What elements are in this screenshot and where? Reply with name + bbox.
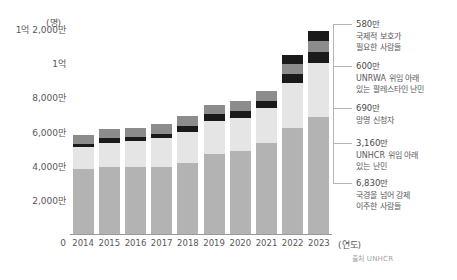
source-note: 출처 UNHCR — [352, 253, 393, 263]
bar-segment-2017-s1[interactable] — [151, 138, 172, 166]
x-axis-tick-2021: 2021 — [256, 238, 278, 248]
bar-2022[interactable] — [282, 55, 303, 234]
bar-segment-2020-s0[interactable] — [230, 151, 251, 234]
bar-segment-2016-s1[interactable] — [125, 141, 146, 167]
y-axis-tick: 4,000만 — [32, 162, 66, 171]
y-axis-tick: 8,000만 — [32, 94, 66, 103]
y-axis-tick: 6,000만 — [32, 128, 66, 137]
callout-desc-1-0: UNRWA 위임 아래 — [356, 73, 424, 84]
x-axis-tick-2019: 2019 — [203, 238, 225, 248]
callout-desc-4-1: 이주한 사람들 — [356, 201, 410, 212]
callout-desc-3-0: UNHCR 위임 아래 — [356, 150, 418, 161]
bar-segment-2021-s1[interactable] — [256, 108, 277, 142]
bar-2015[interactable] — [99, 129, 120, 234]
y-axis-tick: 1억 — [52, 60, 66, 69]
bar-2023[interactable] — [308, 31, 329, 234]
bar-segment-2018-s1[interactable] — [177, 132, 198, 164]
bar-segment-2015-s3[interactable] — [99, 129, 120, 138]
bar-segment-2023-s4[interactable] — [308, 31, 329, 41]
bar-segment-2021-s3[interactable] — [256, 91, 277, 101]
bar-segment-2016-s0[interactable] — [125, 167, 146, 234]
x-axis-caption: (연도) — [338, 238, 361, 251]
bar-segment-2023-s2[interactable] — [308, 52, 329, 64]
bar-segment-2014-s0[interactable] — [73, 169, 94, 234]
callout-2[interactable]: 690만망명 신청자 — [356, 103, 394, 126]
x-axis-tick-2023: 2023 — [308, 238, 330, 248]
x-axis-tick-2020: 2020 — [229, 238, 251, 248]
callout-value-0: 580만 — [356, 19, 401, 31]
leader-horizontal-3 — [333, 143, 352, 144]
bar-segment-2014-s3[interactable] — [73, 135, 94, 144]
chart-figure: (명) 2,000만4,000만6,000만8,000만1억1억 2,000만 … — [0, 0, 457, 280]
bar-segment-2018-s3[interactable] — [177, 116, 198, 125]
callout-value-1: 600만 — [356, 61, 424, 73]
x-axis-tick-2018: 2018 — [177, 238, 199, 248]
bar-segment-2017-s0[interactable] — [151, 167, 172, 234]
bar-segment-2021-s2[interactable] — [256, 101, 277, 109]
callout-4[interactable]: 6,830만국경을 넘어 강제이주한 사람들 — [356, 178, 410, 212]
bar-segment-2014-s1[interactable] — [73, 147, 94, 169]
callout-desc-2-0: 망명 신청자 — [356, 115, 394, 126]
callout-3[interactable]: 3,160만UNHCR 위임 아래있는 난민 — [356, 138, 418, 172]
bar-segment-2019-s3[interactable] — [204, 105, 225, 115]
bar-2014[interactable] — [73, 135, 94, 234]
callout-desc-0-0: 국제적 보호가 — [356, 31, 401, 42]
bar-segment-2019-s2[interactable] — [204, 114, 225, 121]
plot-area — [70, 30, 332, 235]
callout-value-2: 690만 — [356, 103, 394, 115]
bar-segment-2019-s1[interactable] — [204, 121, 225, 153]
callout-0[interactable]: 580만국제적 보호가필요한 사람들 — [356, 19, 401, 53]
bar-segment-2015-s0[interactable] — [99, 167, 120, 234]
bar-segment-2023-s3[interactable] — [308, 41, 329, 51]
leader-horizontal-1 — [333, 66, 352, 67]
callout-desc-0-1: 필요한 사람들 — [356, 42, 401, 53]
bar-2019[interactable] — [204, 105, 225, 234]
bar-segment-2022-s3[interactable] — [282, 64, 303, 74]
callout-desc-1-1: 있는 팔레스타인 난민 — [356, 84, 424, 95]
callout-value-3: 3,160만 — [356, 138, 418, 150]
callout-1[interactable]: 600만UNRWA 위임 아래있는 팔레스타인 난민 — [356, 61, 424, 95]
y-axis-tick-zero: 0 — [54, 238, 66, 248]
x-axis-tick-2017: 2017 — [151, 238, 173, 248]
bar-2016[interactable] — [125, 128, 146, 234]
bar-2018[interactable] — [177, 116, 198, 234]
bar-segment-2017-s3[interactable] — [151, 124, 172, 133]
leader-horizontal-4 — [333, 183, 352, 184]
bar-2017[interactable] — [151, 124, 172, 234]
bar-2020[interactable] — [230, 101, 251, 234]
bar-segment-2018-s0[interactable] — [177, 163, 198, 234]
bar-segment-2020-s2[interactable] — [230, 111, 251, 118]
callout-desc-4-0: 국경을 넘어 강제 — [356, 190, 410, 201]
y-axis-tick: 1억 2,000만 — [16, 26, 66, 35]
callout-value-4: 6,830만 — [356, 178, 410, 190]
bar-segment-2022-s1[interactable] — [282, 83, 303, 128]
x-axis-tick-2014: 2014 — [72, 238, 94, 248]
leader-vertical-spine — [333, 24, 334, 183]
bar-segment-2016-s3[interactable] — [125, 128, 146, 137]
leader-horizontal-0 — [333, 24, 352, 25]
bar-segment-2022-s4[interactable] — [282, 55, 303, 63]
bar-segment-2019-s0[interactable] — [204, 154, 225, 234]
x-axis-baseline — [70, 234, 332, 235]
bar-2021[interactable] — [256, 91, 277, 234]
x-axis-tick-2016: 2016 — [125, 238, 147, 248]
x-axis-tick-2015: 2015 — [98, 238, 120, 248]
bar-segment-2015-s1[interactable] — [99, 143, 120, 168]
bar-segment-2020-s3[interactable] — [230, 101, 251, 111]
callout-desc-3-1: 있는 난민 — [356, 161, 418, 172]
x-axis-tick-2022: 2022 — [282, 238, 304, 248]
bar-segment-2021-s0[interactable] — [256, 143, 277, 234]
leader-horizontal-2 — [333, 108, 352, 109]
bar-segment-2022-s0[interactable] — [282, 128, 303, 234]
y-axis-tick: 2,000만 — [32, 196, 66, 205]
bar-segment-2023-s0[interactable] — [308, 117, 329, 234]
bar-segment-2022-s2[interactable] — [282, 74, 303, 83]
bar-segment-2023-s1[interactable] — [308, 63, 329, 117]
bar-segment-2020-s1[interactable] — [230, 118, 251, 151]
x-axis-tick-labels: 2014201520162017201820192020202120222023 — [70, 238, 332, 254]
